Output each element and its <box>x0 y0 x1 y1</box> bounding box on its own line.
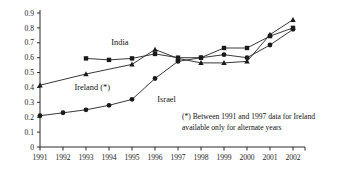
x-tick-label: 2001 <box>262 153 277 162</box>
y-tick-label: 0.8 <box>25 24 35 33</box>
x-tick-label: 1994 <box>101 153 116 162</box>
line-chart: 00.10.20.30.40.50.60.70.80.9 19911992199… <box>0 0 344 183</box>
y-tick-label: 0.1 <box>25 128 35 137</box>
footnote-line-1: (*) Between 1991 and 1997 data for Irela… <box>182 112 315 121</box>
data-point-triangle <box>290 17 295 22</box>
x-tick-label: 1992 <box>55 153 70 162</box>
data-point-square <box>291 26 295 30</box>
x-tick-label: 1995 <box>124 153 139 162</box>
x-tick-label: 2002 <box>285 153 300 162</box>
y-tick-label: 0 <box>30 143 34 152</box>
x-axis: 1991199219931994199519961997199819992000… <box>32 147 305 162</box>
x-tick-label: 1993 <box>78 153 93 162</box>
y-tick-label: 0.7 <box>25 38 35 47</box>
series-israel <box>38 27 296 118</box>
y-axis: 00.10.20.30.40.50.60.70.80.9 <box>25 9 41 152</box>
series-line <box>40 20 293 86</box>
footnote-line-2: available only for alternate years <box>182 123 282 132</box>
data-point-square <box>199 55 203 59</box>
data-point-square <box>130 56 134 60</box>
y-tick-label: 0.5 <box>25 68 35 77</box>
data-point-circle <box>38 113 43 118</box>
data-point-square <box>222 46 226 50</box>
data-point-square <box>107 58 111 62</box>
x-tick-label: 1998 <box>193 153 208 162</box>
y-tick-label: 0.2 <box>25 113 35 122</box>
data-point-triangle <box>129 62 134 67</box>
data-point-circle <box>107 103 112 108</box>
series-label-ireland: Ireland (*) <box>75 83 111 92</box>
data-point-circle <box>268 43 273 48</box>
y-tick-label: 0.4 <box>25 83 35 92</box>
x-tick-label: 1991 <box>32 153 47 162</box>
x-tick-label: 1997 <box>170 153 185 162</box>
data-point-square <box>84 56 88 60</box>
data-point-square <box>245 46 249 50</box>
data-point-circle <box>222 52 227 57</box>
data-point-triangle <box>152 47 157 52</box>
y-tick-label: 0.6 <box>25 53 35 62</box>
data-point-circle <box>84 107 89 112</box>
series-label-india: India <box>111 38 128 47</box>
series-inline-labels: IsraelIndiaIreland (*) <box>75 38 177 104</box>
chart-canvas: 00.10.20.30.40.50.60.70.80.9 19911992199… <box>0 0 344 183</box>
series-label-israel: Israel <box>157 95 176 104</box>
data-point-circle <box>130 97 135 102</box>
data-point-circle <box>153 76 158 81</box>
x-tick-label: 1999 <box>216 153 231 162</box>
data-point-square <box>153 52 157 56</box>
x-tick-label: 1996 <box>147 153 162 162</box>
y-tick-label: 0.3 <box>25 98 35 107</box>
y-tick-label: 0.9 <box>25 9 35 18</box>
footnote-annotation: (*) Between 1991 and 1997 data for Irela… <box>182 112 315 132</box>
x-tick-label: 2000 <box>239 153 254 162</box>
data-point-circle <box>61 110 66 115</box>
